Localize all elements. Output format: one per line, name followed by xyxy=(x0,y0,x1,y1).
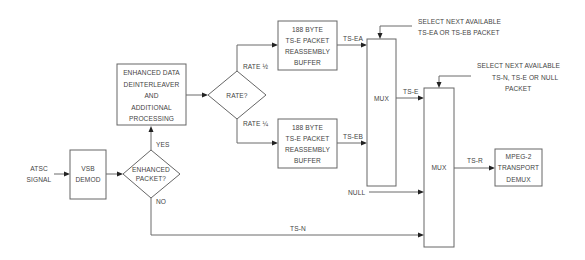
processing-label-line5: PROCESSING xyxy=(129,115,174,122)
mux1-control-note-line2: TS-EA OR TS-EB PACKET xyxy=(418,29,500,36)
arrow-head-icon xyxy=(489,166,495,171)
mpeg-demux-label-line1: MPEG-2 xyxy=(506,153,532,160)
no-branch-label: NO xyxy=(156,198,166,205)
arrow-head-icon xyxy=(418,190,424,195)
vsb-demod-label-line2: DEMOD xyxy=(75,176,100,183)
enhanced-data-processing-block: ENHANCED DATA DEINTERLEAVER AND ADDITION… xyxy=(117,64,186,125)
mux1-control-connector xyxy=(380,26,412,35)
mux-ts-e: MUX xyxy=(367,39,396,186)
arrow-head-icon xyxy=(202,93,208,98)
buffer-b-label-line1: 188 BYTE xyxy=(292,124,323,131)
enhanced-packet-label-line2: PACKET? xyxy=(136,175,166,182)
mpeg2-transport-demux-block: MPEG-2 TRANSPORT DEMUX xyxy=(495,149,542,186)
mux2-control-note-line3: PACKET xyxy=(505,85,532,92)
yes-branch-label: YES xyxy=(156,141,170,148)
arrow-head-icon xyxy=(437,82,442,88)
rate-quarter-label: RATE ¼ xyxy=(243,120,268,127)
mux2-control-note-line1: SELECT NEXT AVAILABLE xyxy=(477,62,560,69)
ts-ea-label: TS-EA xyxy=(343,35,363,42)
arrow-head-icon xyxy=(378,33,383,39)
buffer-a-label-line4: BUFFER xyxy=(294,59,321,66)
arrow-head-icon xyxy=(361,141,367,146)
buffer-b-label-line3: REASSEMBLY xyxy=(285,146,331,153)
arrow-head-icon xyxy=(418,233,424,238)
ts-n-label: TS-N xyxy=(290,225,306,232)
arrow-head-icon xyxy=(272,43,278,48)
buffer-a-label-line1: 188 BYTE xyxy=(292,26,323,33)
buffer-b-label-line2: TS-E PACKET xyxy=(286,135,330,142)
buffer-a-label-line2: TS-E PACKET xyxy=(286,37,330,44)
arrow-head-icon xyxy=(149,126,154,132)
atsc-signal-label-line2: SIGNAL xyxy=(27,176,52,183)
atsc-enhanced-receiver-diagram: ATSC SIGNAL VSB DEMOD ENHANCED PACKET? Y… xyxy=(0,0,585,260)
vsb-demod-block: VSB DEMOD xyxy=(70,150,106,199)
vsb-demod-label-line1: VSB xyxy=(81,165,95,172)
buffer-a-label-line3: REASSEMBLY xyxy=(285,48,331,55)
processing-label-line3: AND xyxy=(144,92,158,99)
mux1-control-note-line1: SELECT NEXT AVAILABLE xyxy=(418,18,501,25)
null-input-label: NULL xyxy=(348,189,365,196)
arrow-head-icon xyxy=(361,43,367,48)
rate-decision-label: RATE? xyxy=(226,92,247,99)
ts-eb-label: TS-EB xyxy=(343,133,363,140)
reassembly-buffer-b: 188 BYTE TS-E PACKET REASSEMBLY BUFFER xyxy=(278,119,337,168)
atsc-signal-label-line1: ATSC xyxy=(30,165,48,172)
arrow-head-icon xyxy=(418,96,424,101)
mpeg-demux-label-line2: TRANSPORT xyxy=(498,164,539,171)
mux-ts-r: MUX xyxy=(424,88,454,247)
ts-r-label: TS-R xyxy=(467,157,483,164)
mux2-control-connector xyxy=(439,76,471,84)
reassembly-buffer-a: 188 BYTE TS-E PACKET REASSEMBLY BUFFER xyxy=(278,21,337,70)
arrow-head-icon xyxy=(64,172,70,177)
enhanced-packet-label-line1: ENHANCED xyxy=(132,166,170,173)
ts-n-connector xyxy=(151,198,420,235)
mpeg-demux-label-line3: DEMUX xyxy=(506,176,531,183)
enhanced-packet-decision: ENHANCED PACKET? xyxy=(123,150,180,198)
buffer-b-label-line4: BUFFER xyxy=(294,157,321,164)
rate-decision: RATE? xyxy=(208,71,266,119)
processing-label-line4: ADDITIONAL xyxy=(131,104,172,111)
mux2-control-note-line2: TS-N, TS-E OR NULL xyxy=(492,74,558,81)
ts-e-label: TS-E xyxy=(403,88,419,95)
rate-half-label: RATE ½ xyxy=(243,63,268,70)
mux1-label: MUX xyxy=(374,95,389,102)
processing-label-line2: DEINTERLEAVER xyxy=(124,81,180,88)
arrow-head-icon xyxy=(117,172,123,177)
processing-label-line1: ENHANCED DATA xyxy=(123,69,180,76)
atsc-signal-input: ATSC SIGNAL xyxy=(27,165,70,183)
arrow-head-icon xyxy=(272,141,278,146)
mux2-label: MUX xyxy=(432,164,447,171)
